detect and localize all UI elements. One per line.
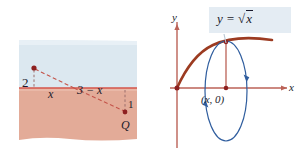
label-point-q: Q: [121, 119, 130, 131]
refraction-figure: 2 x 3 − x 1 Q: [0, 0, 150, 155]
label-distance-1: 1: [128, 99, 134, 110]
point-p-dot: [31, 65, 36, 70]
equation-lhs: y =: [217, 11, 235, 26]
sqrt-curve: [177, 38, 272, 88]
equation-callout-text: y = √x: [217, 11, 253, 27]
sample-point-dot: [224, 86, 229, 91]
y-axis-label: y: [172, 12, 177, 23]
origin-dot: [175, 86, 180, 91]
sample-point-label: (x, 0): [201, 94, 224, 105]
label-distance-x: x: [48, 88, 53, 100]
x-axis-arrow-icon: [281, 86, 287, 91]
radical-icon: √x: [235, 11, 253, 26]
point-q-dot: [123, 110, 128, 115]
figure-pair-canvas: 2 x 3 − x 1 Q: [0, 0, 301, 155]
equation-radicand: x: [246, 10, 253, 26]
label-distance-3-minus-x: 3 − x: [77, 84, 102, 96]
label-distance-2: 2: [22, 76, 29, 89]
x-axis-label: x: [289, 82, 294, 93]
y-axis-arrow-icon: [174, 24, 179, 30]
